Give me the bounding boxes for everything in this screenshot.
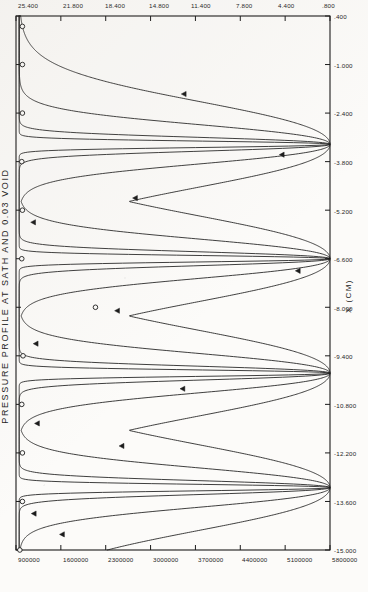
data-curves — [19, 16, 330, 550]
x-tick-label: .400 — [334, 13, 347, 20]
y-tick-label: 3000000 — [153, 556, 179, 563]
x-tick-label: -1.000 — [334, 62, 353, 69]
plot-canvas — [0, 0, 368, 592]
y-tick-label: 900000 — [18, 556, 40, 563]
x-tick-label: -9.400 — [334, 353, 353, 360]
x-tick-label: -15.000 — [334, 547, 356, 554]
y-tick-label: 1600000 — [63, 556, 89, 563]
y-tick-label-secondary: 4.400 — [278, 2, 294, 9]
y-tick-label: 3700000 — [198, 556, 224, 563]
x-tick-label: -3.800 — [334, 159, 353, 166]
chart-stage: PRESSURE PROFILE AT SATH AND 0.03 VOID X… — [0, 0, 368, 592]
y-tick-label-secondary: .800 — [322, 2, 335, 9]
y-tick-label: 2300000 — [108, 556, 134, 563]
y-tick-label-secondary: 25.400 — [18, 2, 38, 9]
y-tick-label-secondary: 14.800 — [149, 2, 169, 9]
x-tick-label: -5.200 — [334, 208, 353, 215]
y-tick-label: 5800000 — [332, 556, 358, 563]
x-tick-label: -8.000 — [334, 305, 353, 312]
y-tick-label: 4400000 — [242, 556, 268, 563]
x-tick-label: -13.600 — [334, 499, 356, 506]
y-tick-label: 5100000 — [287, 556, 313, 563]
y-tick-label-secondary: 7.800 — [236, 2, 252, 9]
scanned-chart-page: PRESSURE PROFILE AT SATH AND 0.03 VOID X… — [0, 0, 368, 592]
y-tick-label-secondary: 11.400 — [191, 2, 211, 9]
y-tick-label-secondary: 21.800 — [63, 2, 83, 9]
x-tick-label: -12.200 — [334, 450, 356, 457]
x-tick-label: -10.800 — [334, 402, 356, 409]
y-tick-label-secondary: 18.400 — [105, 2, 125, 9]
x-tick-label: -6.600 — [334, 256, 353, 263]
x-tick-label: -2.400 — [334, 111, 353, 118]
